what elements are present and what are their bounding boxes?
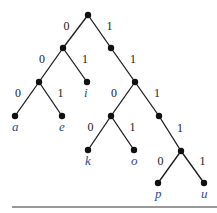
- edge-label: 0: [64, 19, 70, 33]
- edge-label: 1: [154, 86, 160, 100]
- internal-node: [108, 45, 114, 51]
- edge-label: 0: [39, 52, 45, 66]
- internal-node: [85, 12, 91, 18]
- leaf-labels: iaekopu: [12, 85, 208, 201]
- edge-label: 0: [111, 86, 117, 100]
- tree-edges: [15, 15, 204, 183]
- binary-code-tree: 01011010101101 iaekopu: [0, 0, 217, 213]
- leaf-label-o: o: [131, 153, 138, 168]
- internal-node: [178, 148, 184, 154]
- edge-label: 1: [82, 52, 88, 66]
- leaf-label-p: p: [154, 186, 162, 201]
- internal-node: [156, 113, 162, 119]
- internal-node: [108, 113, 114, 119]
- internal-node: [132, 79, 138, 85]
- edge-label: 0: [15, 86, 21, 100]
- internal-node: [60, 45, 66, 51]
- tree-nodes: [12, 12, 207, 186]
- edge-label: 1: [130, 120, 136, 134]
- leaf-label-i: i: [84, 85, 88, 100]
- edge-label: 1: [58, 86, 64, 100]
- leaf-label-a: a: [12, 119, 19, 134]
- edge-label: 1: [200, 154, 206, 168]
- internal-node: [36, 79, 42, 85]
- leaf-label-e: e: [59, 119, 65, 134]
- leaf-label-u: u: [201, 186, 208, 201]
- leaf-label-k: k: [85, 153, 91, 168]
- edge-label: 0: [158, 154, 164, 168]
- edge-label: 1: [130, 52, 136, 66]
- edge-label: 1: [177, 121, 183, 135]
- edge-label: 1: [107, 19, 113, 33]
- edge-label: 0: [88, 120, 94, 134]
